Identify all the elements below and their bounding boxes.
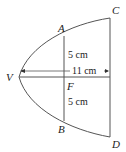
label-c: C [112,4,120,16]
measure-upper-5cm: 5 cm [68,49,88,60]
measure-lower-5cm: 5 cm [68,96,88,107]
label-d: D [111,138,120,150]
label-v: V [6,71,14,83]
parabolic-reflector-diagram: C A V F B D 5 cm 11 cm 5 cm [0,0,126,152]
label-f: F [66,80,74,92]
arrowhead-right-icon [105,69,109,73]
label-a: A [57,22,65,34]
measure-11cm: 11 cm [72,65,97,76]
label-b: B [58,123,65,135]
